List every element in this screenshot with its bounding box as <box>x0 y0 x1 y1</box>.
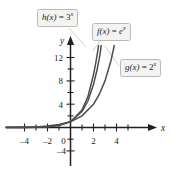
callout-h-lhs: h(x) <box>42 12 57 22</box>
plot-area: x y –4 –2 0 2 4 12 8 4 –4 <box>0 0 182 170</box>
y-tick-label-8: 8 <box>59 76 64 86</box>
callout-f-exponent: x <box>123 24 126 31</box>
x-tick-label-minus2: –2 <box>42 136 52 146</box>
y-tick-label-4: 4 <box>59 100 64 110</box>
callout-g-exponent: x <box>154 60 157 67</box>
callout-label-h: h(x) = 3x <box>37 9 78 27</box>
callout-label-g: g(x) = 2x <box>120 59 161 77</box>
y-tick-label-12: 12 <box>54 53 63 63</box>
callout-g-equals: = <box>140 62 150 72</box>
axes <box>6 36 157 166</box>
exponential-functions-figure: x y –4 –2 0 2 4 12 8 4 –4 h(x) = 3x f(x)… <box>0 0 182 170</box>
x-tick-label-minus4: –4 <box>19 136 30 146</box>
y-axis-arrow <box>67 36 74 45</box>
x-axis-label: x <box>160 123 166 133</box>
callout-g-lhs: g(x) <box>125 62 140 72</box>
x-tick-label-plus4: 4 <box>114 136 119 146</box>
callout-label-f: f(x) = ex <box>92 23 131 41</box>
curve-h-3-to-the-x <box>6 46 99 128</box>
x-tick-label-zero: 0 <box>61 136 66 146</box>
callout-f-equals: = <box>110 26 120 36</box>
x-tick-label-plus2: 2 <box>91 136 96 146</box>
x-axis-arrow <box>148 124 157 131</box>
y-tick-label-minus4: –4 <box>56 146 67 156</box>
callout-h-exponent: x <box>71 10 74 17</box>
callout-h-equals: = <box>57 12 67 22</box>
y-axis-label: y <box>59 36 65 46</box>
callout-f-lhs: f(x) <box>97 26 110 36</box>
